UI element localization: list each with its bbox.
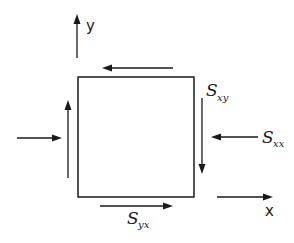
y-axis-label: y [86,17,95,35]
label-normal-xx-sub: xx [273,138,285,149]
right-normal-arrow [211,134,258,141]
label-shear-xy: S xy [206,80,229,103]
x-axis-arrowhead-icon [263,194,273,201]
top-shear-arrowhead-icon [102,65,112,72]
label-shear-yx-main: S [127,208,139,228]
label-shear-yx-sub: yx [137,219,150,230]
right-normal-arrowhead-icon [211,134,221,141]
y-axis-arrowhead-icon [74,14,81,24]
label-shear-yx: S yx [127,208,150,230]
stress-element-diagram: y x S xy S xx S [0,0,294,243]
label-normal-xx: S xx [262,127,285,149]
left-shear-arrow [65,100,72,178]
stress-element-square [78,77,194,197]
label-normal-xx-main: S [262,127,274,147]
left-normal-arrow [17,135,62,142]
bottom-shear-arrowhead-icon [163,203,173,210]
left-shear-arrowhead-icon [65,100,72,110]
left-normal-arrowhead-icon [52,135,62,142]
right-shear-arrow [199,98,206,174]
x-axis-arrow [217,194,273,201]
right-shear-arrowhead-icon [199,164,206,174]
top-shear-arrow [102,65,173,72]
y-axis-arrow [74,14,81,58]
label-shear-xy-main: S [206,80,218,100]
label-shear-xy-sub: xy [217,92,229,103]
x-axis-label: x [265,202,274,220]
